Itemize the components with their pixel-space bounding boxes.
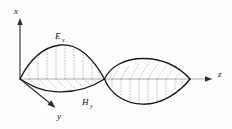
electric-hatch-second (112, 79, 182, 104)
electric-field-curve-second (105, 79, 191, 104)
y-axis-arrowhead (48, 100, 56, 108)
z-axis (20, 76, 212, 81)
magnetic-hatch-second (112, 61, 189, 80)
x-axis-label: x (13, 6, 18, 16)
x-axis (17, 18, 22, 79)
y-axis-label: y (56, 111, 61, 121)
y-axis (20, 79, 56, 108)
electric-field-label-subscript: x (61, 37, 65, 43)
z-axis-label: z (217, 69, 222, 79)
y-axis-line (20, 79, 52, 105)
electric-field-lobe-first (20, 45, 105, 79)
x-axis-arrowhead (17, 18, 22, 25)
wave-diagram-svg: x y z E x H y (0, 0, 232, 129)
electric-field-lobe-second (105, 79, 191, 104)
electric-hatch-first (29, 45, 99, 79)
magnetic-field-lobe-second (105, 59, 191, 80)
axis-labels: x y z (13, 6, 222, 121)
magnetic-field-label-base: H (81, 97, 89, 107)
z-axis-arrowhead (205, 76, 212, 81)
electric-field-label-base: E (54, 31, 61, 41)
wave-diagram-figure: x y z E x H y (0, 0, 232, 129)
magnetic-field-label: H y (81, 97, 93, 109)
magnetic-field-label-subscript: y (89, 103, 93, 109)
electric-field-curve-first (20, 45, 105, 79)
electric-field-label: E x (54, 31, 65, 43)
